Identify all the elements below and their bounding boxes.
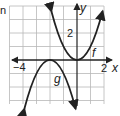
y-axis-label: y — [79, 1, 87, 15]
label-g: g — [54, 72, 61, 86]
x-tick-neg4: −4 — [13, 61, 26, 73]
x-axis-label: x — [111, 61, 119, 75]
y-tick-2: 2 — [67, 27, 73, 39]
graph: n y x 2 −4 2 f g — [0, 0, 120, 116]
label-f: f — [92, 46, 97, 60]
x-tick-2: 2 — [101, 62, 107, 74]
grid — [10, 6, 105, 104]
corner-label: n — [0, 4, 6, 16]
